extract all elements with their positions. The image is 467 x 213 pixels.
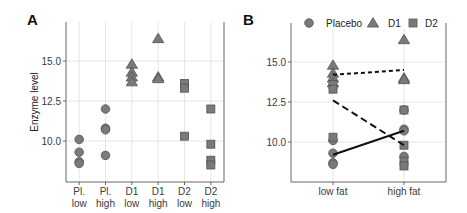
panel-b-circle-point	[329, 160, 338, 169]
panel-b-y-tick-label: 15.0	[267, 57, 287, 68]
panel-b-y-tick-label: 12.5	[267, 97, 287, 108]
mean-line-d1	[333, 70, 404, 75]
panel-a-axis-frame	[66, 22, 224, 182]
panel-a-circle-point	[75, 148, 84, 157]
panel-b-triangle-point	[398, 34, 409, 43]
panel-b-square-point	[400, 162, 408, 170]
mean-line-d2	[333, 100, 404, 145]
panel-b-interaction-plot: 10.012.515.0low fathigh fatPlaceboD1D2	[267, 17, 446, 197]
panel-a-square-point	[207, 105, 215, 113]
panel-b-square-point	[400, 106, 408, 114]
y-axis-title: Enzyme level	[29, 72, 40, 131]
panel-b-square-point	[329, 133, 337, 141]
panel-a-scatter: 10.012.515.0Pl.lowPl.highD1lowD1highD2lo…	[42, 22, 224, 209]
panel-label-a: A	[27, 11, 38, 28]
figure: A B 10.012.515.0Pl.lowPl.highD1lowD1high…	[0, 0, 467, 213]
panel-a-x-tick-label: D2low	[177, 186, 193, 209]
mean-line-placebo	[333, 131, 404, 155]
panel-label-b: B	[243, 11, 254, 28]
panel-a-x-tick-label: D1low	[124, 186, 140, 209]
panel-b-square-point	[329, 85, 337, 93]
panel-a-square-point	[207, 140, 215, 148]
panel-a-y-tick-label: 15.0	[42, 56, 62, 67]
panel-a-square-point	[207, 161, 215, 169]
legend-square-icon	[409, 19, 417, 27]
panel-a-y-tick-label: 12.5	[42, 96, 62, 107]
panel-a-square-point	[181, 84, 189, 92]
panel-a-circle-point	[101, 126, 110, 135]
panel-a-circle-point	[101, 151, 110, 160]
panel-a-circle-point	[75, 159, 84, 168]
panel-a-y-tick-label: 10.0	[42, 136, 62, 147]
legend-label-placebo: Placebo	[326, 18, 363, 29]
panel-b-y-tick-label: 10.0	[267, 137, 287, 148]
panel-a-x-tick-label: Pl.high	[96, 186, 115, 209]
panel-a-x-tick-label: Pl.low	[72, 186, 88, 209]
panel-a-circle-point	[75, 135, 84, 144]
panel-a-square-point	[181, 132, 189, 140]
panel-a-x-tick-label: D1high	[149, 186, 168, 209]
legend-label-d1: D1	[388, 18, 401, 29]
legend-label-d2: D2	[425, 18, 438, 29]
panel-b-x-tick-label: high fat	[388, 186, 421, 197]
legend-circle-icon	[305, 19, 314, 28]
panel-a-triangle-point	[152, 33, 163, 42]
panel-a-circle-point	[101, 105, 110, 114]
panel-a-x-tick-label: D2high	[201, 186, 220, 209]
panel-b-x-tick-label: low fat	[319, 186, 348, 197]
